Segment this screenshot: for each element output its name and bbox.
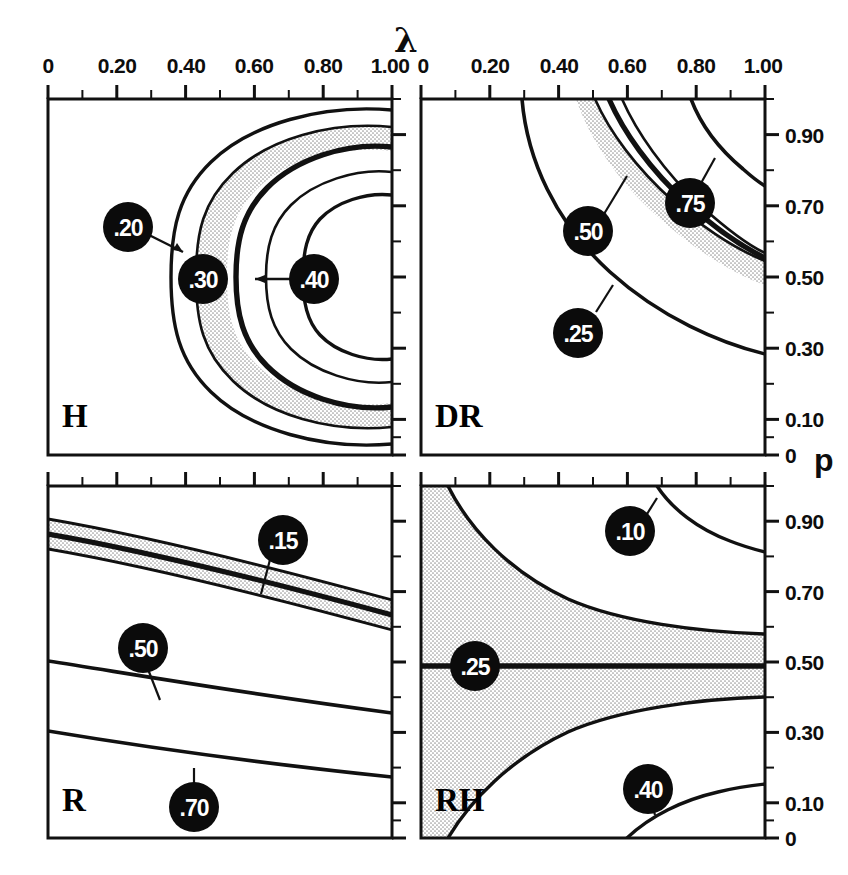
xtick-label-dr-020: 0.20 bbox=[471, 55, 509, 76]
panel-R-shaded-band bbox=[48, 519, 392, 630]
xtick-label-h-040: 0.40 bbox=[167, 55, 205, 76]
panel-R bbox=[48, 519, 392, 800]
xtick-label-h-080: 0.80 bbox=[304, 55, 342, 76]
y-axis-title-p: p bbox=[814, 444, 834, 476]
panel-R-contour-070 bbox=[48, 731, 392, 777]
panel-R-contour-050 bbox=[48, 661, 392, 713]
xtick-label-h-020: 0.20 bbox=[98, 55, 136, 76]
contour-value-labels: .20 .30 .40 .25 .50 .75 .15 .50 .70 .10 … bbox=[114, 191, 706, 821]
contour-label-RH-040: .40 bbox=[634, 777, 663, 803]
xtick-label-dr-060: 0.60 bbox=[608, 55, 646, 76]
contour-figure-svg: .20 .30 .40 .25 .50 .75 .15 .50 .70 .10 … bbox=[0, 0, 848, 875]
contour-label-H-040: .40 bbox=[300, 267, 329, 293]
xtick-label-h-0: 0 bbox=[42, 55, 53, 76]
panel-H-leader-020-arrow bbox=[173, 243, 183, 252]
contour-label-DR-075: .75 bbox=[676, 191, 706, 217]
panel-label-H: H bbox=[62, 400, 88, 433]
ytick-label-dr-050: 0.50 bbox=[785, 267, 823, 288]
panel-DR-leader-025 bbox=[596, 285, 613, 312]
xtick-label-dr-0: 0 bbox=[417, 55, 428, 76]
ytick-label-rh-0: 0 bbox=[785, 828, 796, 849]
figure-root: .20 .30 .40 .25 .50 .75 .15 .50 .70 .10 … bbox=[0, 0, 848, 875]
panel-RH-leader-010 bbox=[647, 498, 657, 514]
contour-label-R-050: .50 bbox=[129, 636, 158, 662]
panel-RH-contour-010 bbox=[657, 486, 765, 552]
ytick-label-rh-010: 0.10 bbox=[785, 792, 823, 813]
panel-DR-leader-050b bbox=[604, 176, 627, 214]
panel-DR bbox=[522, 99, 765, 354]
ytick-label-dr-070: 0.70 bbox=[785, 195, 823, 216]
xtick-label-dr-080: 0.80 bbox=[677, 55, 715, 76]
panel-H-leader-040-arrow bbox=[255, 275, 265, 283]
contour-label-R-015: .15 bbox=[269, 528, 299, 554]
panel-R-frame bbox=[48, 472, 406, 838]
contour-label-RH-025: .25 bbox=[461, 654, 491, 680]
panel-label-RH: RH bbox=[435, 784, 485, 817]
panel-label-R: R bbox=[62, 784, 86, 817]
ytick-label-dr-0: 0 bbox=[785, 445, 796, 466]
panel-DR-contour-075 bbox=[691, 99, 765, 186]
contour-label-H-020: .20 bbox=[114, 215, 143, 241]
ytick-label-rh-030: 0.30 bbox=[785, 722, 823, 743]
ytick-label-rh-090: 0.90 bbox=[785, 511, 823, 532]
xtick-label-dr-100: 1.00 bbox=[744, 55, 782, 76]
x-axis-title-lambda: λ bbox=[394, 23, 418, 57]
contour-label-RH-010: .10 bbox=[616, 519, 645, 545]
ytick-label-dr-010: 0.10 bbox=[785, 409, 823, 430]
xtick-label-h-060: 0.60 bbox=[235, 55, 273, 76]
panel-label-DR: DR bbox=[435, 400, 483, 433]
panel-DR-leader-075 bbox=[700, 158, 715, 185]
xtick-label-dr-040: 0.40 bbox=[540, 55, 578, 76]
contour-label-DR-025: .25 bbox=[564, 321, 594, 347]
contour-label-DR-050: .50 bbox=[574, 219, 603, 245]
ytick-label-dr-030: 0.30 bbox=[785, 338, 823, 359]
ytick-label-rh-070: 0.70 bbox=[785, 581, 823, 602]
contour-label-R-070: .70 bbox=[180, 795, 209, 821]
ytick-label-dr-090: 0.90 bbox=[785, 124, 823, 145]
contour-label-H-030: .30 bbox=[189, 267, 218, 293]
ytick-label-rh-050: 0.50 bbox=[785, 652, 823, 673]
